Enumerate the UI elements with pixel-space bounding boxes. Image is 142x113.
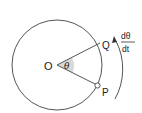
- center-label: O: [44, 60, 53, 72]
- radius-op: [57, 65, 97, 85]
- circular-motion-diagram: O θ Q P dθ dt: [0, 0, 142, 113]
- point-p-marker: [95, 83, 100, 88]
- arrowhead-icon: [112, 36, 117, 43]
- point-p-label: P: [102, 87, 109, 98]
- rate-denominator: dt: [122, 44, 130, 54]
- point-q-label: Q: [102, 40, 110, 51]
- rate-numerator: dθ: [121, 31, 131, 41]
- angle-label: θ: [64, 61, 70, 71]
